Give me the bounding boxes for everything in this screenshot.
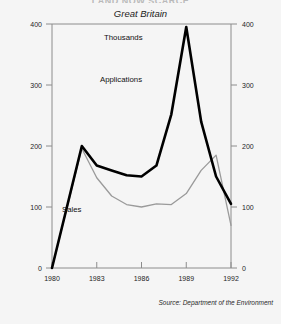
y-right-label-100: 100: [242, 204, 254, 211]
y-right-label-0: 0: [242, 265, 246, 272]
y-left-label-300: 300: [30, 82, 42, 89]
y-right-label-200: 200: [242, 143, 254, 150]
y-left-label-200: 200: [30, 143, 42, 150]
series-label-applications: Applications: [100, 75, 142, 84]
x-label-1983: 1983: [89, 275, 105, 282]
y-left-label-0: 0: [38, 265, 42, 272]
series-line-applications: [52, 27, 231, 268]
unit-label-thousands: Thousands: [104, 33, 143, 42]
series-label-sales: Sales: [62, 205, 82, 214]
x-label-1986: 1986: [134, 275, 150, 282]
y-left-ticks: [46, 24, 52, 268]
chart-figure: LAND NOW SCARCE Great Britain: [0, 0, 281, 324]
x-ticks: [52, 262, 231, 268]
x-label-1992: 1992: [223, 275, 239, 282]
y-left-label-400: 400: [30, 21, 42, 28]
y-right-label-300: 300: [242, 82, 254, 89]
x-label-1989: 1989: [178, 275, 194, 282]
x-label-1980: 1980: [44, 275, 60, 282]
y-right-label-400: 400: [242, 21, 254, 28]
y-right-ticks: [231, 24, 237, 268]
y-left-label-100: 100: [30, 204, 42, 211]
source-note: Source: Department of the Environment: [158, 299, 273, 306]
line-chart-plot: 400 300 200 100 0 400 300 200 100 0 1980…: [0, 0, 281, 324]
